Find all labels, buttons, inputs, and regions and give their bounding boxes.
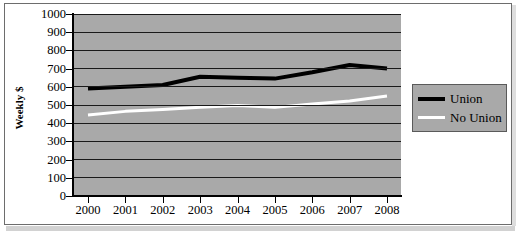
y-axis-tick-label: 400 [24,117,66,129]
y-axis-tick-label: 0 [24,190,66,202]
gridline [74,141,401,142]
y-axis-tick-mark [66,141,73,142]
legend-swatch-no-union [418,116,445,119]
x-axis-tick-labels: 200020012002200320042005200620072008 [74,203,401,223]
y-axis-tick-label: 100 [24,172,66,184]
y-axis-tick-mark [66,105,73,106]
plot-area [74,14,401,196]
legend-item-no-union: No Union [418,108,501,127]
y-axis-tick-mark [66,69,73,70]
y-axis-tick-mark [66,32,73,33]
legend-item-union: Union [418,89,501,108]
gridline [74,177,401,178]
gridline [74,123,401,124]
x-axis-tick-mark [312,197,313,203]
gridline [74,159,401,160]
y-axis-tick-mark [66,50,73,51]
x-axis-tick-mark [88,197,89,203]
y-axis-tick-label: 600 [24,81,66,93]
gridline [74,14,401,15]
y-axis-tick-mark [66,14,73,15]
y-axis-tick-mark [66,178,73,179]
y-axis-tick-label: 900 [24,26,66,38]
y-axis-tick-label: 700 [24,63,66,75]
figure-shadow-right [512,5,516,226]
gridline [74,50,401,51]
x-axis-tick-mark [387,197,388,203]
gridline [74,68,401,69]
y-axis-tick-label: 200 [24,154,66,166]
y-axis-tick-label: 300 [24,135,66,147]
y-axis-tick-labels: 01002003004005006007008009001000 [26,8,70,202]
gridline [74,32,401,33]
y-axis-tick-mark [66,87,73,88]
x-axis-tick-mark [238,197,239,203]
y-axis-tick-label: 500 [24,99,66,111]
y-axis-tick-mark [66,196,73,197]
y-axis-tick-label: 800 [24,44,66,56]
x-axis-tick-mark [200,197,201,203]
y-axis-tick-mark [66,160,73,161]
legend-label-union: Union [450,92,483,106]
gridline [74,105,401,106]
x-axis-tick-mark [275,197,276,203]
x-axis-tick-label: 2008 [365,203,409,218]
chart-legend: Union No Union [412,84,507,132]
legend-swatch-union [418,97,445,101]
x-axis-tick-mark [125,197,126,203]
gridline [74,86,401,87]
y-axis-tick-mark [66,123,73,124]
chart-figure: Weekly $ 0100200300400500600700800900100… [0,0,519,239]
x-axis-tick-mark [163,197,164,203]
x-axis-tick-mark [350,197,351,203]
figure-shadow-bottom-lower [0,231,519,239]
legend-label-no-union: No Union [450,111,502,125]
y-axis-tick-label: 1000 [24,8,66,20]
